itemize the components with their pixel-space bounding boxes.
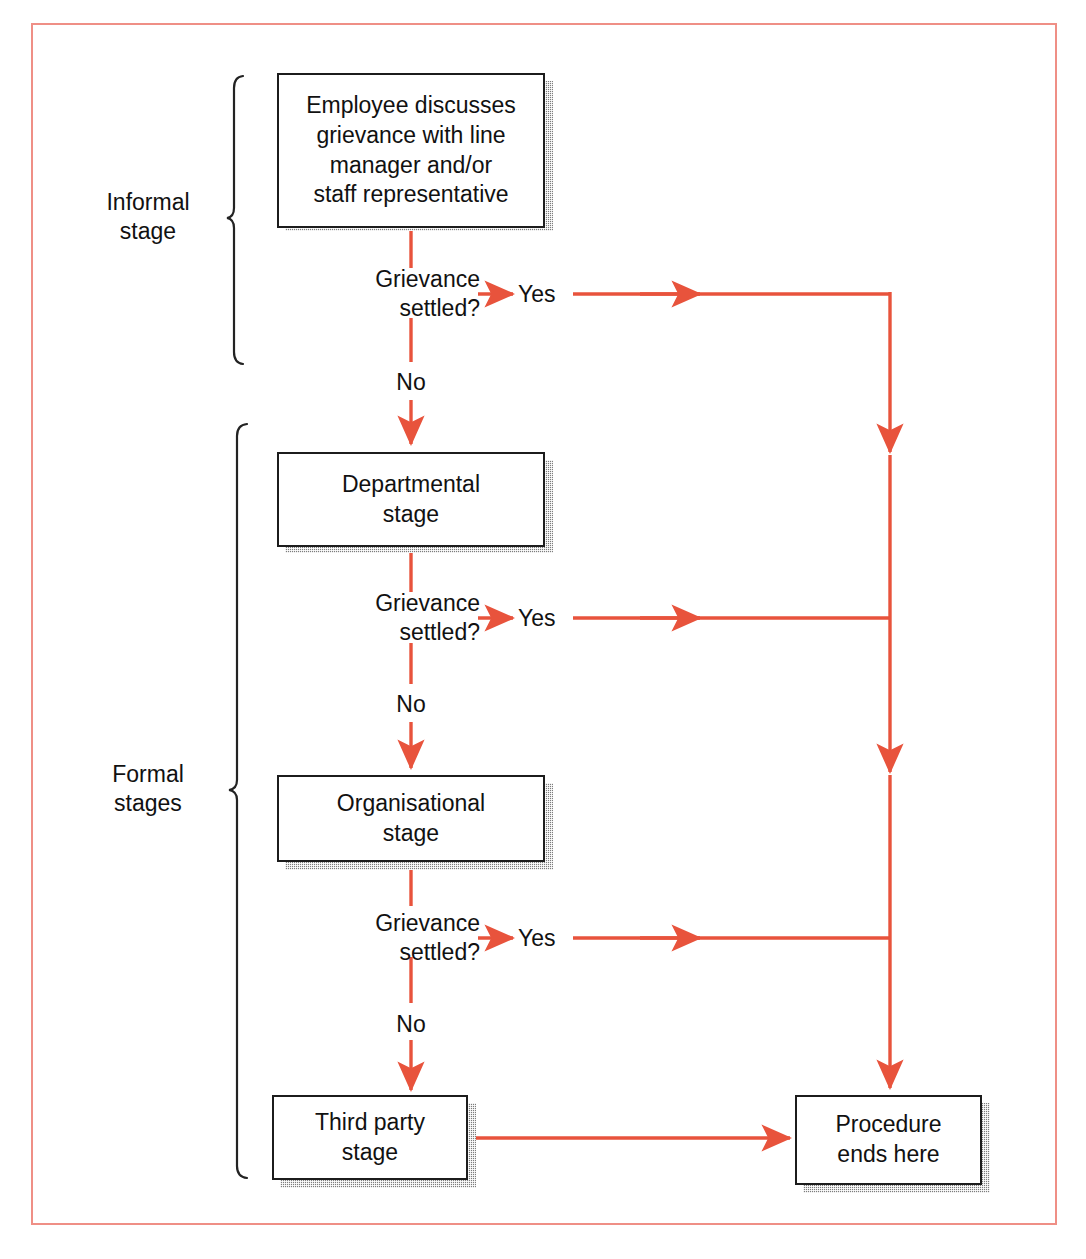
decision-2-label: Grievance settled? — [330, 589, 480, 648]
group-label-formal: Formal stages — [78, 760, 218, 819]
node-organisational-label: Organisational stage — [337, 789, 485, 849]
decision-1-yes-label: Yes — [518, 280, 574, 309]
group-label-informal: Informal stage — [78, 188, 218, 247]
figure-root: Informal stage Formal stages Employee di… — [0, 0, 1086, 1259]
decision-2-yes-label: Yes — [518, 604, 574, 633]
decision-3-no-label: No — [381, 1010, 441, 1039]
decision-1-label: Grievance settled? — [330, 265, 480, 324]
node-end-label: Procedure ends here — [835, 1110, 941, 1170]
decision-3-label: Grievance settled? — [330, 909, 480, 968]
decision-3-yes-label: Yes — [518, 924, 574, 953]
node-third-party[interactable]: Third party stage — [272, 1095, 468, 1180]
node-departmental-label: Departmental stage — [342, 470, 480, 530]
node-departmental[interactable]: Departmental stage — [277, 452, 545, 547]
decision-1-no-label: No — [381, 368, 441, 397]
node-end[interactable]: Procedure ends here — [795, 1095, 982, 1185]
node-organisational[interactable]: Organisational stage — [277, 775, 545, 862]
node-start[interactable]: Employee discusses grievance with line m… — [277, 73, 545, 228]
node-third-party-label: Third party stage — [315, 1108, 425, 1168]
node-start-label: Employee discusses grievance with line m… — [306, 91, 516, 211]
decision-2-no-label: No — [381, 690, 441, 719]
